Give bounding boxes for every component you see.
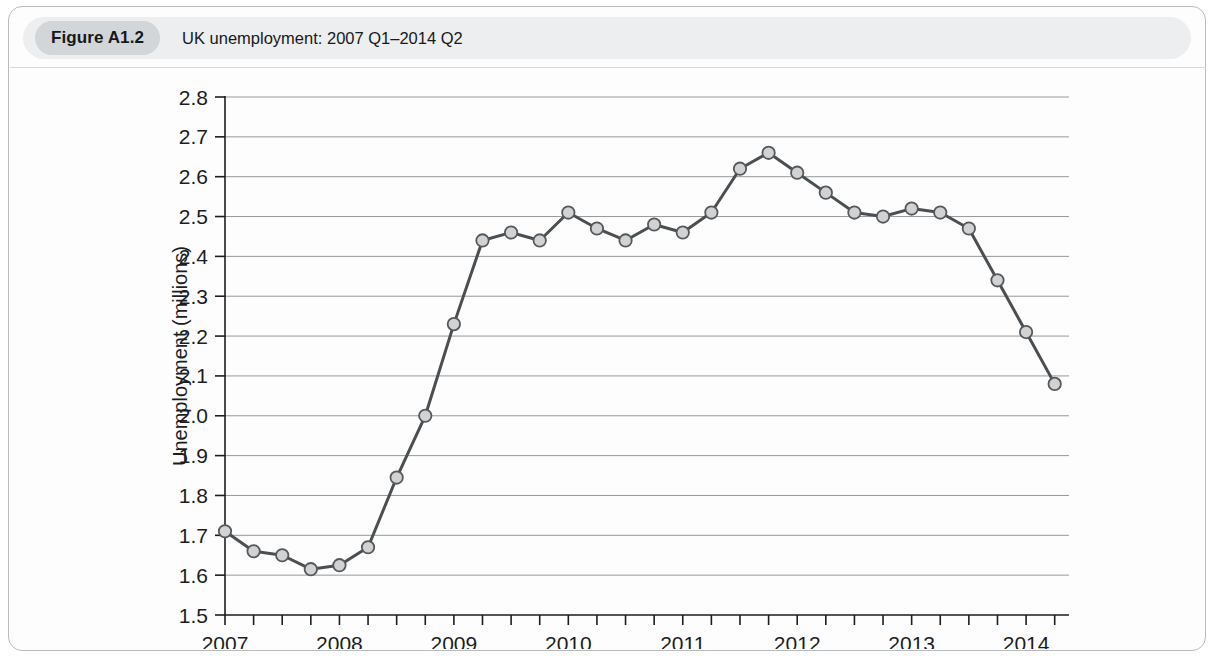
x-tick-label: 2011 [660,632,705,649]
data-point-marker [419,410,431,422]
figure-title: UK unemployment: 2007 Q1–2014 Q2 [182,29,463,48]
data-point-marker [677,226,689,238]
x-tick-label: 2012 [774,632,821,649]
y-tick-label: 1.5 [179,604,208,627]
y-tick-label: 1.6 [179,564,208,587]
y-tick-label: 2.8 [179,86,208,109]
y-tick-label: 1.8 [179,484,208,507]
data-point-marker [848,206,860,218]
data-point-marker [648,218,660,230]
unemployment-series-line [225,153,1055,569]
data-point-marker [619,234,631,246]
data-point-marker [1048,378,1060,390]
data-point-marker [505,226,517,238]
data-point-marker [476,234,488,246]
data-point-marker [247,545,259,557]
x-tick-label: 2010 [545,632,592,649]
data-point-marker [562,206,574,218]
x-tick-label: 2008 [316,632,363,649]
x-tick-label: 2013 [888,632,935,649]
figure-header-bar: Figure A1.2 UK unemployment: 2007 Q1–201… [23,17,1191,59]
data-point-marker [219,525,231,537]
y-axis-title: Unemployment (millions) [169,246,191,466]
figure-card: Figure A1.2 UK unemployment: 2007 Q1–201… [8,6,1206,651]
data-point-marker [820,186,832,198]
data-point-marker [390,471,402,483]
data-point-marker [705,206,717,218]
data-point-marker [991,274,1003,286]
data-point-marker [305,563,317,575]
data-point-marker [934,206,946,218]
header-divider [10,67,1206,68]
y-tick-label: 1.7 [179,524,208,547]
chart-area: 1.51.61.71.81.92.02.12.22.32.42.52.62.72… [9,69,1205,649]
data-point-marker [362,541,374,553]
y-tick-label: 2.7 [179,125,208,148]
data-point-marker [276,549,288,561]
data-point-marker [734,163,746,175]
x-axis-minor-ticks [225,615,1055,625]
figure-number-badge: Figure A1.2 [35,21,160,55]
y-tick-label: 2.5 [179,205,208,228]
data-point-marker [877,210,889,222]
x-tick-label: 2009 [431,632,478,649]
data-point-marker [905,202,917,214]
data-point-marker [762,147,774,159]
gridlines [225,97,1069,575]
y-tick-label: 2.6 [179,165,208,188]
data-point-marker [333,559,345,571]
data-point-marker [591,222,603,234]
unemployment-data-markers [219,147,1061,576]
data-point-marker [448,318,460,330]
x-tick-label: 2014 [1003,632,1050,649]
data-point-marker [791,167,803,179]
x-tick-label: 2007 [202,632,249,649]
data-point-marker [963,222,975,234]
unemployment-line-chart: 1.51.61.71.81.92.02.12.22.32.42.52.62.72… [9,69,1205,649]
data-point-marker [534,234,546,246]
x-axis-tick-labels: 20072008200920102011201220132014 [202,632,1050,649]
data-point-marker [1020,326,1032,338]
